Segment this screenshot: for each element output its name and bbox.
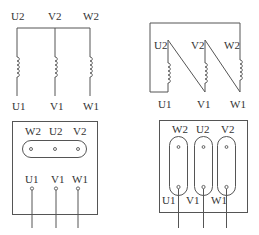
label-box1-u2: U2	[49, 125, 62, 137]
terminal-u1	[177, 185, 180, 188]
coil-icon	[55, 57, 57, 77]
motor-winding-diagram: U2 V2 W2 U1 V1 W1 U2 V2 W2	[0, 0, 259, 235]
label-box1-u1: U1	[25, 173, 38, 185]
star-connection-schematic: U2 V2 W2 U1 V1 W1	[11, 10, 99, 112]
label-box1-w2: W2	[25, 125, 41, 137]
label-box1-v2: V2	[73, 125, 86, 137]
label-star-w1: W1	[83, 100, 99, 112]
terminal-u2	[54, 148, 57, 151]
label-delta-w1: W1	[230, 98, 246, 110]
label-delta-u2: U2	[154, 39, 167, 51]
terminal-v1	[54, 187, 57, 190]
delta-return-wire	[150, 23, 240, 92]
coil-icon	[168, 63, 170, 83]
label-delta-v2: V2	[191, 39, 204, 51]
label-delta-v1: V1	[197, 98, 210, 110]
coil-icon	[240, 60, 242, 80]
label-star-u2: U2	[11, 10, 24, 22]
delta-connection-schematic: U2 V2 W2 U1 V1 W1	[150, 23, 246, 110]
terminal-w2	[30, 148, 33, 151]
terminal-v1	[202, 185, 205, 188]
label-box2-u2: U2	[196, 123, 209, 135]
terminal-u2	[202, 146, 205, 149]
label-box1-v1: V1	[51, 173, 64, 185]
label-box2-v1: V1	[186, 194, 199, 206]
label-star-v2: V2	[48, 10, 61, 22]
label-star-w2: W2	[83, 10, 99, 22]
label-star-u1: U1	[12, 100, 25, 112]
terminal-v2	[77, 148, 80, 151]
coil-icon	[90, 57, 92, 77]
terminal-w1	[225, 185, 228, 188]
terminal-u1	[30, 187, 33, 190]
label-star-v1: V1	[50, 100, 63, 112]
label-box2-v2: V2	[221, 123, 234, 135]
label-box2-w1: W1	[211, 194, 227, 206]
label-box2-w2: W2	[172, 123, 188, 135]
coil-icon	[17, 57, 19, 77]
label-box1-w1: W1	[72, 173, 88, 185]
label-delta-u1: U1	[158, 98, 171, 110]
label-delta-w2: W2	[224, 39, 240, 51]
terminal-w2	[177, 146, 180, 149]
terminal-w1	[76, 187, 79, 190]
coil-icon	[205, 63, 207, 83]
star-terminal-box: W2 U2 V2 U1 V1 W1	[13, 122, 98, 229]
label-box2-u1: U1	[162, 194, 175, 206]
delta-terminal-box: W2 U2 V2 U1 V1 W1	[160, 121, 248, 229]
supply-leads	[32, 190, 78, 228]
terminal-v2	[225, 146, 228, 149]
